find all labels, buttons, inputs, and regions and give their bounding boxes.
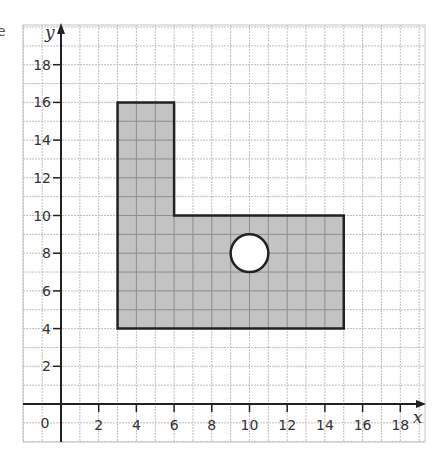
x-tick-label: 14: [316, 417, 334, 433]
shapes: [23, 25, 425, 442]
y-tick-label: 14: [33, 132, 51, 148]
y-tick-label: 8: [42, 245, 51, 261]
circular-hole: [231, 234, 269, 272]
l-shape: [23, 25, 425, 442]
x-tick-label: 2: [94, 417, 103, 433]
cropped-text-fragment: e: [0, 23, 6, 39]
y-axis-label: y: [44, 22, 55, 42]
x-tick-label: 12: [278, 417, 296, 433]
y-tick-label: 16: [33, 94, 51, 110]
origin-label: 0: [41, 415, 50, 431]
x-tick-label: 8: [207, 417, 216, 433]
x-tick-label: 16: [354, 417, 372, 433]
y-tick-label: 18: [33, 57, 51, 73]
x-tick-label: 6: [170, 417, 179, 433]
y-tick-label: 12: [33, 170, 51, 186]
y-tick-label: 6: [42, 283, 51, 299]
x-tick-label: 10: [241, 417, 259, 433]
x-tick-label: 18: [391, 417, 409, 433]
y-tick-label: 2: [42, 358, 51, 374]
coordinate-grid-plot: e 24681012141618246810121416180xy: [0, 0, 432, 460]
y-tick-label: 10: [33, 208, 51, 224]
x-tick-label: 4: [132, 417, 141, 433]
x-axis-label: x: [413, 407, 423, 427]
y-tick-label: 4: [42, 321, 51, 337]
